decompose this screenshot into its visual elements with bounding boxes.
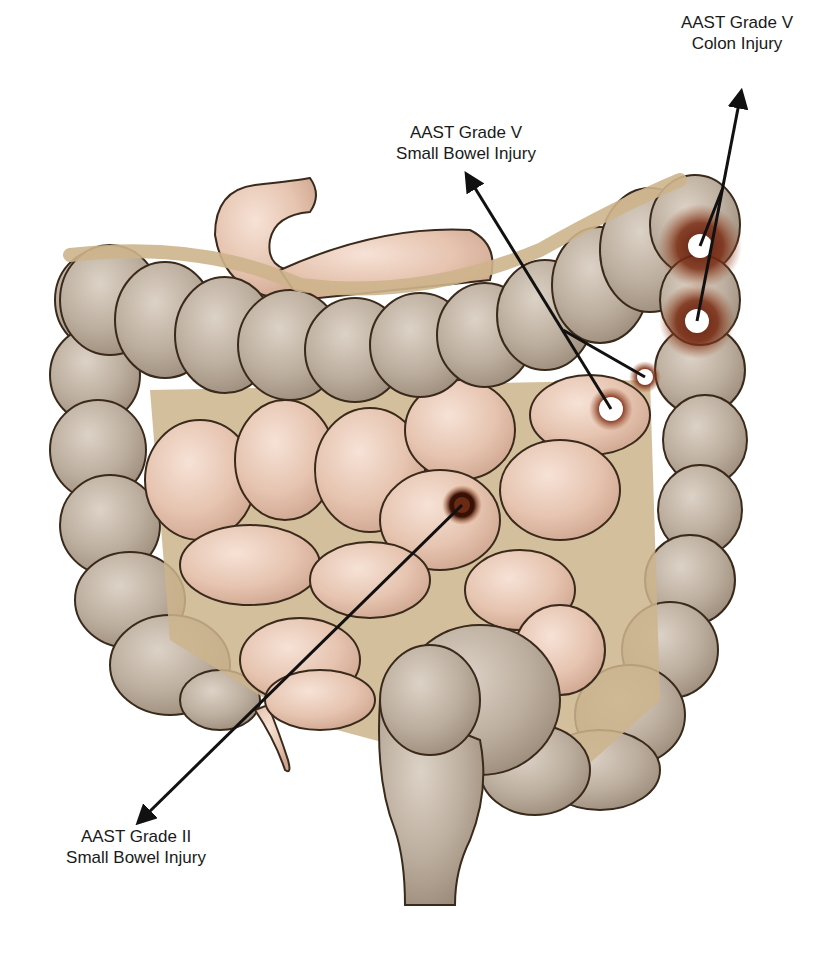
- label-colon-grade-v: AAST Grade V Colon Injury: [677, 12, 797, 54]
- label-line-1: AAST Grade V: [677, 12, 797, 33]
- label-line-1: AAST Grade II: [51, 826, 221, 847]
- label-line-2: Small Bowel Injury: [381, 143, 551, 164]
- label-small-bowel-grade-v: AAST Grade V Small Bowel Injury: [381, 122, 551, 164]
- label-line-1: AAST Grade V: [381, 122, 551, 143]
- label-small-bowel-grade-ii: AAST Grade II Small Bowel Injury: [51, 826, 221, 868]
- label-line-2: Colon Injury: [677, 33, 797, 54]
- label-line-2: Small Bowel Injury: [51, 847, 221, 868]
